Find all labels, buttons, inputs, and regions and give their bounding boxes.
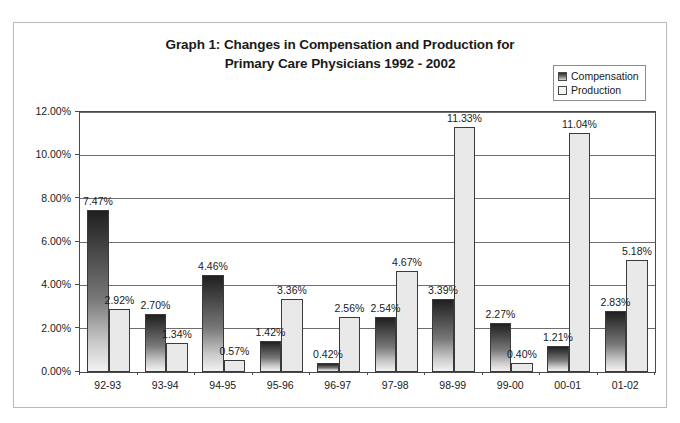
x-axis-tick-label: 96-97 — [324, 379, 351, 391]
data-label-compensation: 1.21% — [543, 331, 573, 343]
bar-production[interactable] — [224, 360, 246, 372]
legend-item-production[interactable]: Production — [558, 83, 639, 97]
bar-production[interactable] — [166, 343, 188, 372]
bar-production[interactable] — [454, 127, 476, 372]
bar-group — [483, 112, 541, 372]
data-label-compensation: 2.27% — [486, 308, 516, 320]
plot-area: 7.47%2.92%2.70%1.34%4.46%0.57%1.42%3.36%… — [79, 111, 656, 373]
data-label-compensation: 1.42% — [256, 326, 286, 338]
bar-compensation[interactable] — [145, 314, 167, 373]
data-label-production: 2.92% — [105, 294, 135, 306]
bar-group — [195, 112, 253, 372]
chart-frame: Graph 1: Changes in Compensation and Pro… — [13, 22, 667, 408]
bar-production[interactable] — [396, 271, 418, 372]
bar-compensation[interactable] — [317, 363, 339, 372]
x-axis-tick-label: 01-02 — [612, 379, 639, 391]
y-axis-tick-label: 10.00% — [19, 148, 71, 160]
y-axis-tick-label: 2.00% — [19, 322, 71, 334]
x-axis-tick-label: 94-95 — [209, 379, 236, 391]
chart-title-line-1: Graph 1: Changes in Compensation and Pro… — [14, 35, 666, 54]
data-label-production: 2.56% — [335, 302, 365, 314]
data-label-compensation: 7.47% — [83, 195, 113, 207]
x-axis-tick-label: 93-94 — [152, 379, 179, 391]
bar-group — [80, 112, 138, 372]
data-label-production: 5.18% — [622, 245, 652, 257]
legend-label-production: Production — [571, 84, 621, 96]
data-label-production: 1.34% — [162, 328, 192, 340]
bar-group — [310, 112, 368, 372]
x-axis-tick-label: 00-01 — [554, 379, 581, 391]
y-axis-tick-label: 0.00% — [19, 365, 71, 377]
bar-compensation[interactable] — [547, 346, 569, 372]
data-label-production: 11.04% — [562, 118, 597, 130]
x-axis-tick-label: 99-00 — [497, 379, 524, 391]
bar-group — [368, 112, 426, 372]
data-label-production: 0.57% — [220, 345, 250, 357]
bar-group — [598, 112, 656, 372]
bar-production[interactable] — [511, 363, 533, 372]
bar-compensation[interactable] — [375, 317, 397, 372]
data-label-production: 0.40% — [507, 348, 537, 360]
compensation-swatch-icon — [558, 72, 567, 81]
x-axis-tick-label: 98-99 — [439, 379, 466, 391]
y-axis-tick-label: 8.00% — [19, 192, 71, 204]
bar-compensation[interactable] — [260, 341, 282, 372]
chart-legend: Compensation Production — [553, 65, 646, 101]
data-label-compensation: 2.70% — [141, 299, 171, 311]
data-label-production: 4.67% — [392, 256, 422, 268]
legend-label-compensation: Compensation — [571, 70, 639, 82]
x-axis-tick-label: 95-96 — [267, 379, 294, 391]
bar-compensation[interactable] — [432, 299, 454, 372]
bar-production[interactable] — [109, 309, 131, 372]
data-label-compensation: 4.46% — [198, 260, 228, 272]
bar-production[interactable] — [339, 317, 361, 372]
x-axis-tick-label: 92-93 — [94, 379, 121, 391]
data-label-compensation: 0.42% — [313, 348, 343, 360]
data-label-production: 11.33% — [447, 112, 482, 124]
bar-compensation[interactable] — [202, 275, 224, 372]
data-label-compensation: 3.39% — [428, 284, 458, 296]
x-axis-tick-label: 97-98 — [382, 379, 409, 391]
bar-compensation[interactable] — [605, 311, 627, 372]
bar-group — [425, 112, 483, 372]
bar-production[interactable] — [626, 260, 648, 372]
legend-item-compensation[interactable]: Compensation — [558, 69, 639, 83]
y-axis-tick-label: 6.00% — [19, 235, 71, 247]
bar-compensation[interactable] — [87, 210, 109, 372]
y-axis-tick-label: 12.00% — [19, 105, 71, 117]
data-label-compensation: 2.54% — [371, 302, 401, 314]
production-swatch-icon — [558, 86, 567, 95]
y-axis-tick-label: 4.00% — [19, 278, 71, 290]
data-label-production: 3.36% — [277, 284, 307, 296]
data-label-compensation: 2.83% — [601, 296, 631, 308]
